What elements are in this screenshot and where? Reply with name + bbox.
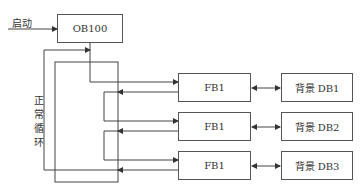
loop-char: 常 xyxy=(33,108,45,122)
loop-char: 环 xyxy=(33,136,45,150)
start-label: 启动 xyxy=(12,15,32,30)
db2-box: 背景 DB2 xyxy=(281,112,353,141)
loop-label: 正 常 循 环 xyxy=(33,94,45,150)
loop-char: 正 xyxy=(33,94,45,108)
fb1-box-1: FB1 xyxy=(178,73,251,102)
fb1-box-3: FB1 xyxy=(178,151,251,180)
fb1-box-2: FB1 xyxy=(178,112,251,141)
loop-char: 循 xyxy=(33,122,45,136)
ob100-box: OB100 xyxy=(57,14,123,43)
db3-box: 背景 DB3 xyxy=(281,151,353,180)
db1-box: 背景 DB1 xyxy=(281,73,353,102)
